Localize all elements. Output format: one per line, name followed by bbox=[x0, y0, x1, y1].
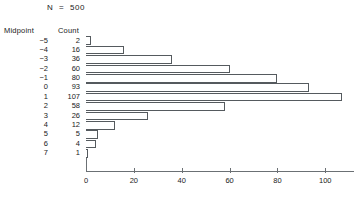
x-axis-tick-label: 40 bbox=[167, 176, 197, 185]
sample-size-label: N = 500 bbox=[47, 3, 85, 12]
histogram-bar bbox=[86, 130, 98, 139]
histogram-row: 71 bbox=[0, 149, 362, 158]
midpoint-value: 3 bbox=[4, 111, 48, 120]
histogram-bar bbox=[86, 46, 124, 55]
histogram-bar bbox=[86, 93, 342, 102]
count-value: 36 bbox=[52, 54, 80, 63]
column-header-midpoint: Midpoint bbox=[4, 26, 34, 35]
bar-track bbox=[86, 92, 362, 101]
midpoint-value: −2 bbox=[4, 64, 48, 73]
x-axis-tick-label: 60 bbox=[215, 176, 245, 185]
bar-track bbox=[86, 45, 362, 54]
x-axis-line bbox=[86, 171, 354, 172]
count-value: 80 bbox=[52, 73, 80, 82]
midpoint-value: 2 bbox=[4, 101, 48, 110]
histogram-bar bbox=[86, 149, 88, 158]
histogram-bar bbox=[86, 55, 172, 64]
count-value: 5 bbox=[52, 129, 80, 138]
midpoint-value: −3 bbox=[4, 54, 48, 63]
midpoint-value: 6 bbox=[4, 139, 48, 148]
histogram-bar bbox=[86, 102, 225, 111]
bar-track bbox=[86, 83, 362, 92]
bar-track bbox=[86, 121, 362, 130]
bar-track bbox=[86, 55, 362, 64]
x-axis-tick bbox=[134, 168, 135, 173]
bar-track bbox=[86, 102, 362, 111]
bar-track bbox=[86, 36, 362, 45]
count-value: 93 bbox=[52, 82, 80, 91]
histogram-bar bbox=[86, 140, 96, 149]
bar-track bbox=[86, 74, 362, 83]
histogram-bar bbox=[86, 36, 91, 45]
midpoint-value: −1 bbox=[4, 73, 48, 82]
axis-origin-tick bbox=[86, 158, 87, 171]
midpoint-value: 7 bbox=[4, 148, 48, 157]
x-axis-tick-label: 100 bbox=[310, 176, 340, 185]
count-value: 4 bbox=[52, 139, 80, 148]
column-header-count: Count bbox=[58, 26, 79, 35]
count-value: 26 bbox=[52, 111, 80, 120]
count-value: 12 bbox=[52, 120, 80, 129]
histogram-rows: −52−416−336−260−180093110725832641255647… bbox=[0, 36, 362, 158]
midpoint-value: 4 bbox=[4, 120, 48, 129]
histogram-bar bbox=[86, 121, 115, 130]
histogram-figure: N = 500 Midpoint Count −52−416−336−260−1… bbox=[0, 0, 362, 202]
bar-track bbox=[86, 139, 362, 148]
count-value: 2 bbox=[52, 36, 80, 45]
midpoint-value: 5 bbox=[4, 129, 48, 138]
histogram-bar bbox=[86, 112, 148, 121]
bar-track bbox=[86, 64, 362, 73]
histogram-bar bbox=[86, 65, 230, 74]
histogram-bar bbox=[86, 74, 277, 83]
count-value: 16 bbox=[52, 45, 80, 54]
x-axis-tick-label: 0 bbox=[71, 176, 101, 185]
count-value: 107 bbox=[52, 92, 80, 101]
midpoint-value: −4 bbox=[4, 45, 48, 54]
count-value: 58 bbox=[52, 101, 80, 110]
bar-track bbox=[86, 149, 362, 158]
x-axis-tick bbox=[230, 168, 231, 173]
midpoint-value: 0 bbox=[4, 82, 48, 91]
x-axis-tick bbox=[325, 168, 326, 173]
bar-track bbox=[86, 111, 362, 120]
count-value: 60 bbox=[52, 64, 80, 73]
bar-track bbox=[86, 130, 362, 139]
midpoint-value: 1 bbox=[4, 92, 48, 101]
x-axis-tick-label: 20 bbox=[119, 176, 149, 185]
count-value: 1 bbox=[52, 148, 80, 157]
x-axis-tick bbox=[277, 168, 278, 173]
histogram-bar bbox=[86, 83, 309, 92]
x-axis-tick bbox=[182, 168, 183, 173]
x-axis-tick-label: 80 bbox=[262, 176, 292, 185]
midpoint-value: −5 bbox=[4, 36, 48, 45]
